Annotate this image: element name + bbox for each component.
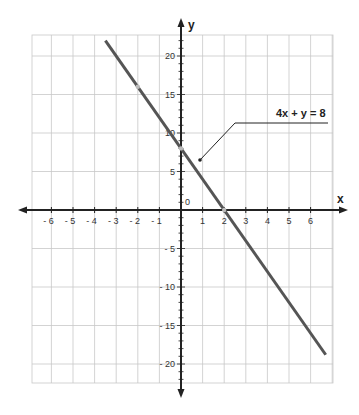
x-tick-label: 5 <box>286 216 291 226</box>
equation-callout: 4x + y = 8 <box>198 107 328 162</box>
data-point <box>222 208 226 212</box>
x-tick-label: - 5 <box>65 216 76 226</box>
x-tick-label: 4 <box>265 216 270 226</box>
x-tick-label: 3 <box>243 216 248 226</box>
y-tick-label: 15 <box>165 90 175 100</box>
y-tick-label: - 5 <box>164 244 175 254</box>
x-axis-left-arrow-icon <box>18 207 27 214</box>
y-tick-label: - 20 <box>159 359 175 369</box>
origin-label: 0 <box>185 197 190 207</box>
x-tick-label: - 6 <box>43 216 54 226</box>
x-tick-label: - 4 <box>86 216 97 226</box>
graph: - 6- 5- 4- 3- 2- 11234562015105- 5- 10- … <box>0 0 359 415</box>
data-point <box>136 85 140 89</box>
x-tick-label: - 2 <box>130 216 141 226</box>
x-axis-label: x <box>337 192 344 206</box>
data-point <box>179 146 183 150</box>
y-tick-label: 20 <box>165 51 175 61</box>
line-series <box>105 41 325 355</box>
x-tick-label: - 1 <box>151 216 162 226</box>
y-axis-down-arrow-icon <box>178 389 185 398</box>
y-tick-label: - 10 <box>159 282 175 292</box>
x-axis-right-arrow-icon <box>339 207 348 214</box>
x-tick-label: 6 <box>308 216 313 226</box>
callout-leader-line <box>200 123 328 160</box>
x-tick-label: 2 <box>222 216 227 226</box>
equation-label: 4x + y = 8 <box>276 107 326 119</box>
x-tick-label: 1 <box>200 216 205 226</box>
y-axis-label: y <box>188 18 195 32</box>
y-tick-label: 5 <box>170 167 175 177</box>
x-tick-label: - 3 <box>108 216 119 226</box>
y-tick-label: - 15 <box>159 321 175 331</box>
y-axis-up-arrow-icon <box>178 18 185 27</box>
